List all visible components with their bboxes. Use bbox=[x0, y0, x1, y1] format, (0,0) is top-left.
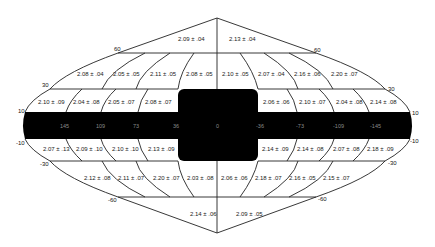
cell-value: 2.04 ± .08 bbox=[73, 99, 100, 105]
cell-value: 2.08 ± .05 bbox=[186, 71, 213, 77]
cell-value: 2.07 ± .13 bbox=[43, 146, 70, 152]
lat-label: 10 bbox=[412, 110, 419, 116]
cell-value: 2.18 ± .09 bbox=[367, 146, 394, 152]
lat-label: -30 bbox=[388, 160, 397, 166]
lat-label: 60 bbox=[314, 47, 321, 53]
lat-label: 60 bbox=[114, 46, 121, 52]
cell-value: 2.08 ± .07 bbox=[145, 99, 172, 105]
lat-label: -10 bbox=[410, 138, 419, 144]
cell-value: 2.05 ± .07 bbox=[108, 99, 135, 105]
cell-value: 2.14 ± .06 bbox=[190, 211, 217, 217]
cell-value: 2.12 ± .08 bbox=[84, 175, 111, 181]
cell-value: 2.06 ± .06 bbox=[263, 99, 290, 105]
lon-label: -145 bbox=[370, 123, 381, 129]
lon-label: -36 bbox=[256, 123, 264, 129]
cell-value: 2.04 ± .08 bbox=[336, 99, 363, 105]
cell-value: 2.11 ± .05 bbox=[150, 71, 177, 77]
lat-label: -60 bbox=[108, 197, 117, 203]
row-minus90-minus60: 2.14 ± .06 2.09 ± .05 bbox=[190, 211, 263, 217]
cell-value: 2.13 ± .09 bbox=[148, 146, 175, 152]
lon-label: 0 bbox=[216, 123, 219, 129]
cell-value: 2.03 ± .08 bbox=[187, 175, 214, 181]
lon-label: 73 bbox=[133, 123, 139, 129]
lat-label: 30 bbox=[388, 86, 395, 92]
lon-label: 145 bbox=[60, 123, 69, 129]
cell-value: 2.13 ± .04 bbox=[229, 36, 256, 42]
cell-value: 2.10 ± .07 bbox=[299, 99, 326, 105]
sky-map: 60 30 10 -10 -30 -60 60 30 10 -10 -30 -6… bbox=[0, 0, 435, 247]
cell-value: 2.07 ± .08 bbox=[333, 146, 360, 152]
lat-label: -30 bbox=[40, 161, 49, 167]
lat-label: -60 bbox=[318, 196, 327, 202]
lon-label: -73 bbox=[296, 123, 304, 129]
cell-value: 2.10 ± .09 bbox=[38, 99, 65, 105]
cell-value: 2.09 ± .04 bbox=[178, 36, 205, 42]
lat-label: 10 bbox=[18, 108, 25, 114]
lon-label: -109 bbox=[333, 123, 344, 129]
cell-value: 2.14 ± .08 bbox=[297, 146, 324, 152]
cell-value: 2.05 ± .05 bbox=[113, 71, 140, 77]
row-30-60: 2.08 ± .04 2.05 ± .05 2.11 ± .05 2.08 ± … bbox=[77, 71, 358, 77]
cell-value: 2.14 ± .08 bbox=[370, 99, 397, 105]
cell-value: 2.08 ± .04 bbox=[77, 71, 104, 77]
cell-value: 2.10 ± .10 bbox=[112, 146, 139, 152]
lon-label: 36 bbox=[173, 123, 179, 129]
cell-value: 2.18 ± .07 bbox=[255, 175, 282, 181]
lat-label: 30 bbox=[42, 82, 49, 88]
cell-value: 2.09 ± .05 bbox=[236, 211, 263, 217]
cell-value: 2.11 ± .07 bbox=[118, 175, 145, 181]
cell-value: 2.09 ± .10 bbox=[76, 146, 103, 152]
cell-value: 2.16 ± .05 bbox=[289, 175, 316, 181]
cell-value: 2.10 ± .05 bbox=[222, 71, 249, 77]
cell-value: 2.07 ± .04 bbox=[258, 71, 285, 77]
cell-value: 2.14 ± .09 bbox=[262, 146, 289, 152]
cell-value: 2.20 ± .07 bbox=[153, 175, 180, 181]
cell-value: 2.16 ± .06 bbox=[294, 71, 321, 77]
cell-value: 2.15 ± .07 bbox=[323, 175, 350, 181]
cell-value: 2.06 ± .06 bbox=[221, 175, 248, 181]
lon-label: 109 bbox=[96, 123, 105, 129]
lat-label: -10 bbox=[16, 140, 25, 146]
cell-value: 2.20 ± .07 bbox=[331, 71, 358, 77]
